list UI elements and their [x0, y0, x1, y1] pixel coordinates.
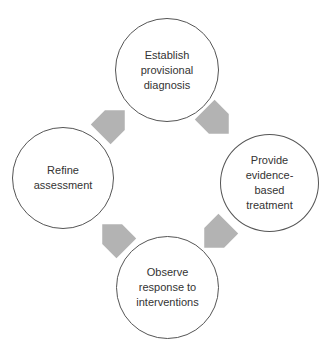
node-observe-response: Observe response to interventions	[116, 236, 219, 339]
node-establish-diagnosis: Establish provisional diagnosis	[115, 18, 219, 122]
node-label: Provide evidence- based treatment	[246, 153, 294, 213]
node-label: Observe response to interventions	[136, 265, 198, 310]
node-provide-treatment: Provide evidence- based treatment	[220, 134, 319, 232]
node-label: Establish provisional diagnosis	[141, 48, 194, 93]
arrow-left-to-top-icon	[91, 100, 135, 144]
node-refine-assessment: Refine assessment	[12, 127, 114, 229]
node-label: Refine assessment	[34, 163, 93, 193]
